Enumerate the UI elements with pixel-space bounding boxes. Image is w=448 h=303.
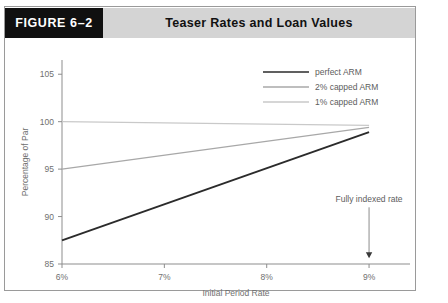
x-tick-label: 6% xyxy=(56,272,69,282)
annotation-label: Fully indexed rate xyxy=(336,194,403,204)
legend-label: 2% capped ARM xyxy=(315,82,378,92)
x-tick-label: 9% xyxy=(363,272,376,282)
x-tick-label: 8% xyxy=(261,272,274,282)
chart-legend: perfect ARM2% capped ARM1% capped ARM xyxy=(263,67,378,107)
x-axis-title: Initial Period Rate xyxy=(202,288,269,298)
series-line xyxy=(62,122,369,126)
y-tick-label: 100 xyxy=(40,117,54,127)
y-tick-label: 90 xyxy=(45,212,55,222)
x-tick-label: 7% xyxy=(158,272,171,282)
y-axis-title: Percentage of Par xyxy=(20,128,30,197)
legend-label: 1% capped ARM xyxy=(315,97,378,107)
chart-plot: 859095100105 6%7%8%9% Percentage of Par … xyxy=(0,0,448,303)
y-axis-ticks: 859095100105 xyxy=(40,69,62,269)
y-tick-label: 95 xyxy=(45,164,55,174)
figure-container: FIGURE 6–2 Teaser Rates and Loan Values … xyxy=(0,0,448,303)
x-axis-ticks: 6%7%8%9% xyxy=(56,264,376,282)
legend-label: perfect ARM xyxy=(315,67,362,77)
y-tick-label: 85 xyxy=(45,259,55,269)
annotation-arrow-head xyxy=(366,252,372,258)
data-series-group xyxy=(62,122,369,241)
y-tick-label: 105 xyxy=(40,69,54,79)
chart-annotations: Fully indexed rate xyxy=(336,194,403,258)
